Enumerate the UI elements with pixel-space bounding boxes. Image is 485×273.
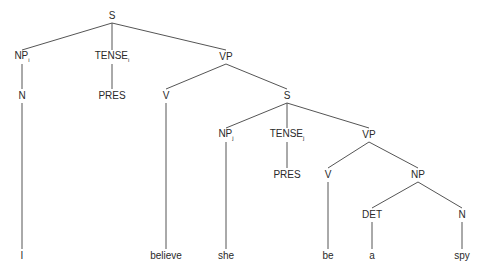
tree-edge [226,64,287,89]
tree-node: NPi [14,51,29,63]
terminal-word: be [322,251,333,261]
tree-node: PRES [273,170,300,180]
node-index-subscript: i [28,57,29,63]
node-label: V [163,90,170,101]
tree-node: N [18,91,25,101]
tree-node: PRES [98,91,125,101]
terminal-word: I [21,251,24,261]
node-label: NP [218,128,232,139]
node-index-subscript: j [303,135,304,141]
terminal-word: a [369,251,375,261]
node-label: a [369,250,375,261]
tree-node: S [109,11,116,21]
node-index-subscript: j [232,135,233,141]
node-label: N [458,209,465,220]
node-label: PRES [273,169,300,180]
tree-node: NPj [218,129,233,141]
tree-edge [226,103,287,128]
syntax-tree-diagram: SNPiTENSEiVPNPRESVSNPjTENSEjVPPRESVNPDET… [0,0,485,273]
node-label: DET [362,209,382,220]
node-label: VP [362,129,375,140]
tree-edge [418,182,462,208]
node-label: TENSE [270,128,303,139]
node-label: N [18,90,25,101]
tree-edge [372,182,418,208]
node-label: PRES [98,90,125,101]
tree-node: VP [219,52,232,62]
tree-node: DET [362,210,382,220]
node-label: I [21,250,24,261]
tree-node: TENSEj [270,129,305,141]
tree-node: TENSEi [95,51,130,63]
node-label: VP [219,51,232,62]
node-label: she [218,250,234,261]
tree-node: V [163,91,170,101]
tree-node: VP [362,130,375,140]
tree-node: NP [411,170,425,180]
tree-edge [112,23,226,50]
node-label: NP [411,169,425,180]
tree-edge [369,142,418,168]
tree-edges [0,0,485,273]
node-label: S [109,10,116,21]
tree-node: V [325,170,332,180]
node-label: be [322,250,333,261]
terminal-word: she [218,251,234,261]
node-label: spy [454,250,470,261]
terminal-word: spy [454,251,470,261]
node-label: S [284,90,291,101]
tree-node: N [458,210,465,220]
node-label: believe [150,250,182,261]
tree-edge [328,142,369,168]
tree-edge [166,64,226,89]
tree-node: S [284,91,291,101]
node-label: TENSE [95,50,128,61]
terminal-word: believe [150,251,182,261]
node-label: V [325,169,332,180]
tree-edge [287,103,369,128]
node-index-subscript: i [128,57,129,63]
tree-edge [22,23,112,50]
node-label: NP [14,50,28,61]
